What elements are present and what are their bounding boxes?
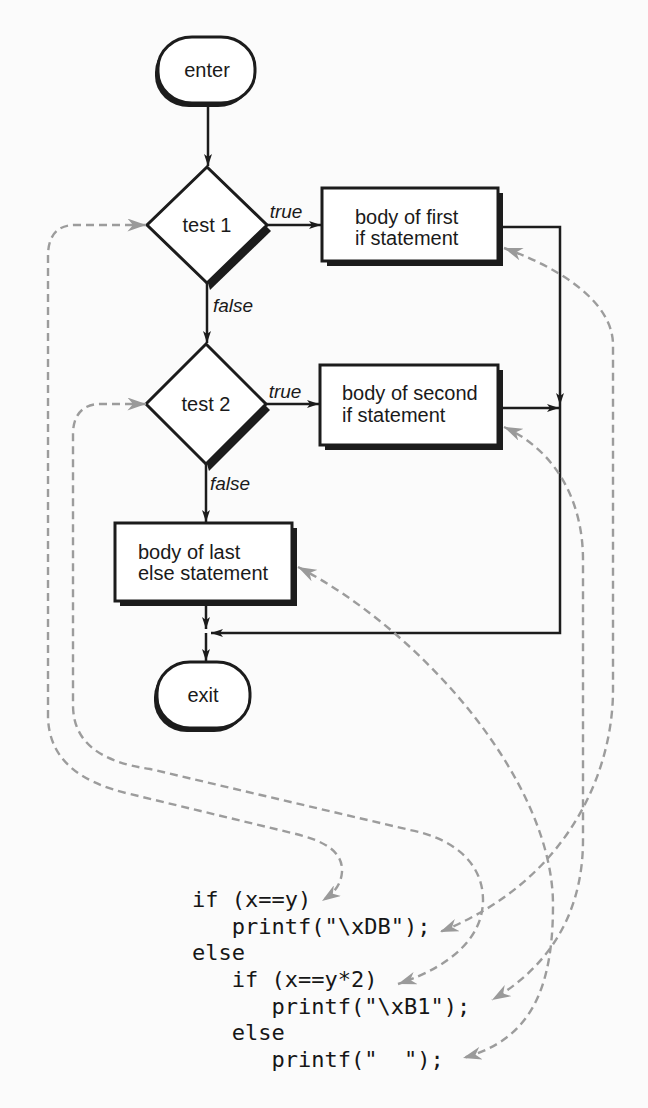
code-line-if-x-eq-y-times-2: if (x==y*2) <box>192 967 470 994</box>
test-2-decision: test 2 <box>146 344 270 471</box>
test-1-true-label: true <box>270 201 303 222</box>
test-1-false-label: false <box>213 295 253 316</box>
body-second-if-box: body of second if statement <box>320 365 503 450</box>
code-listing: if (x==y) printf("\xDB"); else if (x==y*… <box>192 887 470 1074</box>
body-first-if-box: body of first if statement <box>322 188 503 266</box>
body-last-else-line-1: body of last <box>138 541 241 563</box>
link-body-2-to-code <box>492 427 583 1000</box>
body-last-else-line-2: else statement <box>138 562 269 584</box>
code-line-if-x-eq-y: if (x==y) <box>192 887 470 914</box>
body-second-if-line-1: body of second <box>342 382 478 404</box>
test-2-false-label: false <box>210 473 250 494</box>
exit-label: exit <box>187 684 219 706</box>
test-2-label: test 2 <box>182 393 231 415</box>
figure-page: enter test 1 body of first if statement … <box>0 0 648 1108</box>
code-line-else-2: else <box>192 1020 470 1047</box>
test-1-label: test 1 <box>183 214 232 236</box>
body-first-if-line-2: if statement <box>355 227 459 249</box>
flow-body-1-out-down <box>503 227 560 405</box>
code-line-printf-blank: printf(" "); <box>192 1047 470 1074</box>
link-body-1-to-code <box>440 248 613 932</box>
exit-terminal: exit <box>154 662 250 732</box>
code-line-else-1: else <box>192 940 470 967</box>
test-2-true-label: true <box>269 381 302 402</box>
code-line-printf-xb1: printf("\xB1"); <box>192 994 470 1021</box>
test-1-decision: test 1 <box>147 167 271 290</box>
code-line-printf-xdb: printf("\xDB"); <box>192 914 470 941</box>
body-second-if-line-2: if statement <box>342 404 446 426</box>
enter-label: enter <box>184 59 230 81</box>
body-last-else-box: body of last else statement <box>115 523 297 606</box>
body-first-if-line-1: body of first <box>355 206 459 228</box>
enter-terminal: enter <box>155 37 255 107</box>
